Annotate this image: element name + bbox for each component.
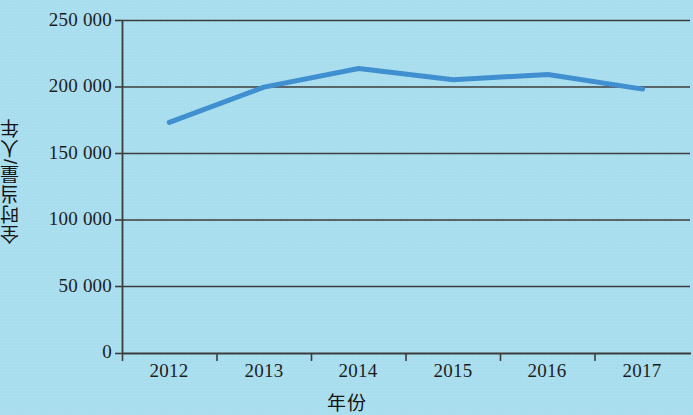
- x-axis-title: 年份: [0, 388, 693, 415]
- data-series-line: [169, 68, 642, 122]
- x-tick-label-2014: 2014: [311, 360, 405, 382]
- x-tick-label-2015: 2015: [406, 360, 500, 382]
- y-tick-label-200000: 200 000: [0, 75, 112, 97]
- y-axis-ticks: [115, 21, 122, 354]
- x-tick-label-2012: 2012: [122, 360, 216, 382]
- gridlines: [122, 21, 690, 287]
- y-axis-title: 全时当量/人年: [0, 118, 21, 244]
- x-tick-label-2017: 2017: [595, 360, 689, 382]
- x-tick-label-2013: 2013: [217, 360, 311, 382]
- y-tick-label-0: 0: [0, 341, 112, 363]
- x-tick-label-2016: 2016: [500, 360, 594, 382]
- chart-container: 250 000 200 000 150 000 100 000 50 000 0…: [0, 0, 693, 415]
- y-tick-label-50000: 50 000: [0, 275, 112, 297]
- y-tick-label-250000: 250 000: [0, 9, 112, 31]
